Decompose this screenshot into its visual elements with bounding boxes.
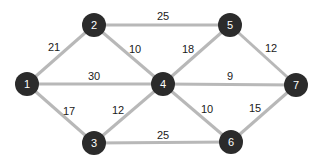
edge-3-4 bbox=[94, 84, 163, 143]
node-label: 5 bbox=[227, 19, 233, 31]
graph-diagram: 21301725101225189101215 1234567 bbox=[0, 0, 323, 164]
edge-weight-1-2: 21 bbox=[48, 41, 60, 53]
node-6: 6 bbox=[219, 130, 243, 154]
edge-3-6 bbox=[94, 142, 231, 143]
node-label: 3 bbox=[91, 137, 97, 149]
edge-4-7 bbox=[163, 84, 296, 85]
edge-weight-1-4: 30 bbox=[88, 70, 100, 82]
node-7: 7 bbox=[284, 73, 308, 97]
edge-weight-2-4: 10 bbox=[129, 43, 141, 55]
edge-weight-4-6: 10 bbox=[201, 103, 213, 115]
node-4: 4 bbox=[151, 72, 175, 96]
edge-4-6 bbox=[163, 84, 231, 142]
node-label: 1 bbox=[24, 78, 30, 90]
edge-1-3 bbox=[27, 84, 94, 143]
edge-5-7 bbox=[230, 25, 296, 85]
node-1: 1 bbox=[15, 72, 39, 96]
node-label: 4 bbox=[160, 78, 166, 90]
edge-weight-3-4: 12 bbox=[112, 104, 124, 116]
node-label: 2 bbox=[91, 19, 97, 31]
edge-weight-4-7: 9 bbox=[227, 70, 233, 82]
edge-weight-3-6: 25 bbox=[157, 129, 169, 141]
node-5: 5 bbox=[218, 13, 242, 37]
edge-weight-1-3: 17 bbox=[63, 105, 75, 117]
node-label: 6 bbox=[228, 136, 234, 148]
edge-1-2 bbox=[27, 25, 94, 84]
edge-weight-6-7: 15 bbox=[249, 102, 261, 114]
node-label: 7 bbox=[293, 79, 299, 91]
node-2: 2 bbox=[82, 13, 106, 37]
edge-6-7 bbox=[231, 85, 296, 142]
edge-4-5 bbox=[163, 25, 230, 84]
edge-weight-4-5: 18 bbox=[182, 43, 194, 55]
node-3: 3 bbox=[82, 131, 106, 155]
edge-weight-5-7: 12 bbox=[265, 42, 277, 54]
edge-weight-2-5: 25 bbox=[157, 10, 169, 22]
